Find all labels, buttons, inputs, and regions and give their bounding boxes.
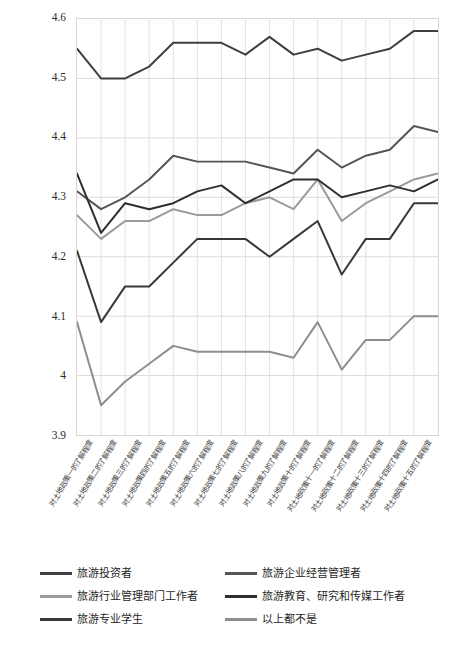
legend-label: 以上都不是 — [262, 613, 317, 625]
x-axis-tick-label: 对土地政策四的了解程度 — [120, 439, 167, 507]
y-axis-tick-label: 4.2 — [52, 251, 66, 263]
legend-color-swatch — [40, 595, 72, 598]
legend-label: 旅游企业经营管理者 — [262, 567, 361, 579]
series-line-5 — [77, 316, 438, 405]
y-axis-tick-label: 4.6 — [52, 12, 66, 24]
legend-label: 旅游教育、研究和传媒工作者 — [262, 590, 405, 602]
y-axis-tick-label: 4.5 — [52, 72, 66, 84]
legend-color-swatch — [40, 618, 72, 621]
y-axis-tick-label: 3.9 — [52, 430, 66, 442]
legend-item[interactable]: 旅游企业经营管理者 — [225, 567, 440, 579]
x-axis-tick-label: 对土地政策十的了解程度 — [266, 439, 313, 507]
legend-label: 旅游投资者 — [77, 567, 132, 579]
plot-area — [76, 18, 439, 436]
legend-item[interactable]: 以上都不是 — [225, 613, 440, 625]
legend-item[interactable]: 旅游行业管理部门工作者 — [40, 590, 225, 602]
legend-color-swatch — [225, 595, 257, 598]
line-chart: 4.64.54.44.34.24.143.9 对土地政策一的了解程度对土地政策二… — [0, 0, 461, 649]
x-axis-tick-label: 对土地政策一的了解程度 — [48, 439, 95, 507]
series-line-0 — [77, 31, 438, 79]
legend-color-swatch — [225, 572, 257, 575]
legend-item[interactable]: 旅游专业学生 — [40, 613, 225, 625]
y-axis-tick-label: 4 — [60, 371, 66, 383]
series-lines — [77, 19, 438, 435]
y-axis-tick-label: 4.1 — [52, 311, 66, 323]
chart-legend: 旅游投资者旅游企业经营管理者旅游行业管理部门工作者旅游教育、研究和传媒工作者旅游… — [40, 562, 440, 632]
legend-item[interactable]: 旅游投资者 — [40, 567, 225, 579]
legend-label: 旅游行业管理部门工作者 — [77, 590, 198, 602]
y-axis: 4.64.54.44.34.24.143.9 — [0, 18, 72, 436]
legend-label: 旅游专业学生 — [77, 613, 143, 625]
x-axis-tick-label: 对土地政策五的了解程度 — [145, 439, 192, 507]
x-axis: 对土地政策一的了解程度对土地政策二的了解程度对土地政策三的了解程度对土地政策四的… — [76, 437, 439, 557]
y-axis-tick-label: 4.3 — [52, 191, 66, 203]
series-line-3 — [77, 174, 438, 233]
x-axis-tick-label: 对土地政策九的了解程度 — [241, 439, 288, 507]
y-axis-tick-label: 4.4 — [52, 132, 66, 144]
legend-item[interactable]: 旅游教育、研究和传媒工作者 — [225, 590, 440, 602]
x-axis-tick-label: 对土地政策十五的了解程度 — [383, 439, 433, 513]
legend-color-swatch — [40, 572, 72, 575]
legend-color-swatch — [225, 618, 257, 621]
series-line-2 — [77, 174, 438, 239]
